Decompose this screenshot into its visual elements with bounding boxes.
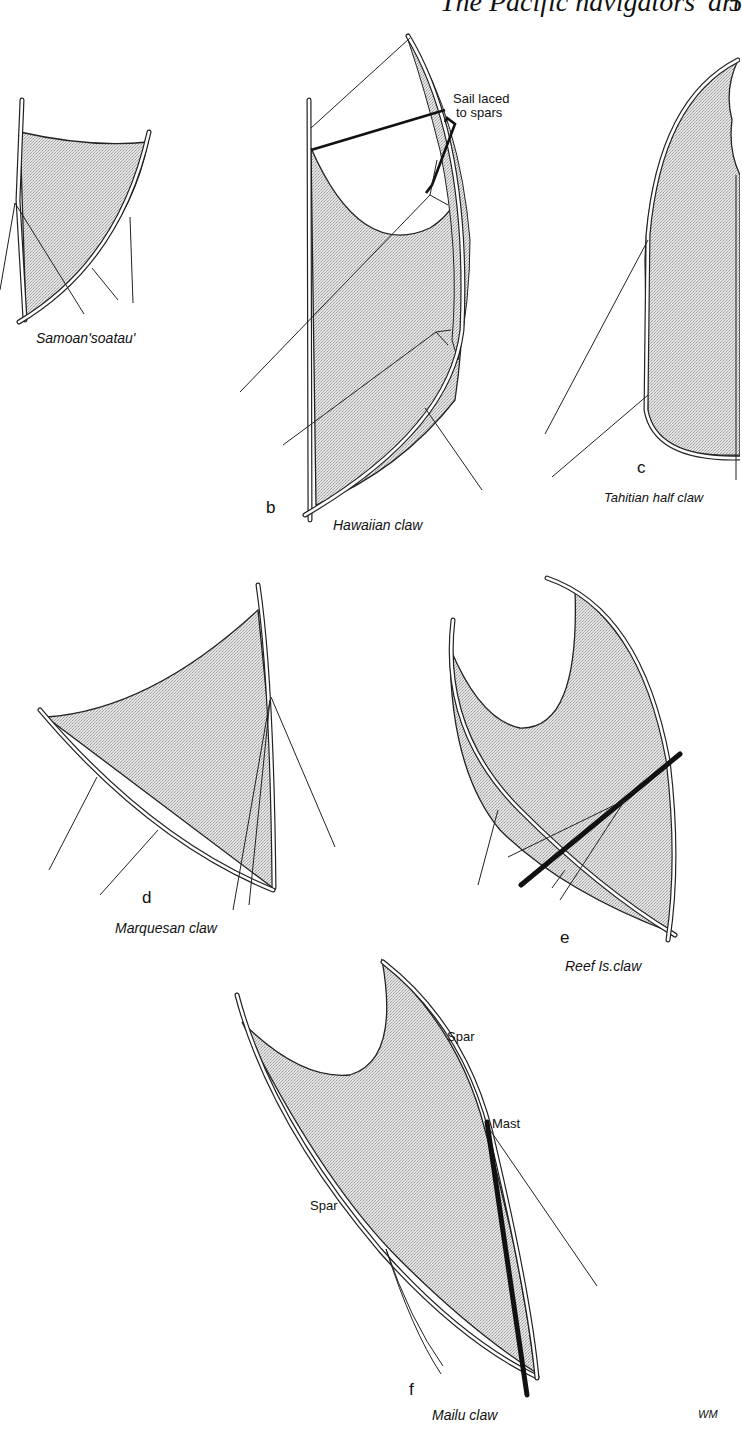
- caption-mailu: Mailu claw: [432, 1407, 497, 1423]
- label-spar-upper: Spar: [447, 1029, 474, 1044]
- figure-letter-b: b: [266, 498, 275, 518]
- annotation-sail-laced-2: to spars: [456, 105, 502, 120]
- label-mast: Mast: [492, 1116, 520, 1131]
- annotation-sail-laced-1: Sail laced: [453, 91, 509, 106]
- figure-samoan-soatau: [0, 100, 149, 322]
- figure-letter-c: c: [637, 458, 646, 478]
- figure-letter-d: d: [142, 888, 151, 908]
- caption-tahitian: Tahitian half claw: [604, 490, 703, 505]
- figure-marquesan-claw: [40, 585, 335, 910]
- caption-hawaiian: Hawaiian claw: [333, 517, 422, 533]
- figure-tahitian-half-claw: [545, 60, 740, 480]
- figure-mailu-claw: [237, 960, 597, 1395]
- caption-samoan: Samoan'soatau': [36, 330, 136, 346]
- figure-letter-e: e: [560, 928, 569, 948]
- caption-reef-islands: Reef Is.claw: [565, 958, 641, 974]
- figure-letter-f: f: [409, 1380, 414, 1400]
- caption-marquesan: Marquesan claw: [115, 920, 217, 936]
- label-spar-lower: Spar: [310, 1198, 337, 1213]
- figure-reef-islands-claw: [450, 578, 680, 940]
- illustrator-signature: WM: [698, 1408, 718, 1420]
- figure-hawaiian-claw: [240, 36, 482, 520]
